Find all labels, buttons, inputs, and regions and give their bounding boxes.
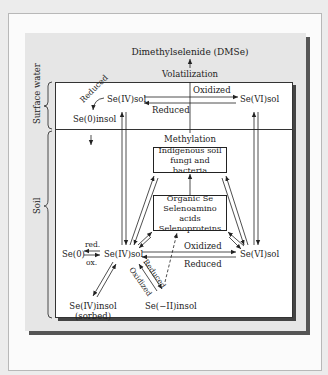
surface-se-vi-sol: Se(VI)sol <box>240 95 279 104</box>
organic-line-2: Selenoamino acids <box>154 203 226 224</box>
surface-reduced-label: Reduced <box>152 106 190 115</box>
methylation-label: Methylation <box>164 135 216 144</box>
soil-red-label: red. <box>85 241 100 249</box>
surface-oxidized-label: Oxidized <box>193 86 231 95</box>
zone-label-surface-water: Surface water <box>32 63 42 124</box>
microbes-box: Indigenous soil fungi and bacteria <box>153 147 227 173</box>
surface-se-0-insol: Se(0)insol <box>73 115 116 124</box>
microbes-line-2: fungi and bacteria <box>154 155 226 176</box>
surface-se-iv-sol: Se(IV)sol <box>107 95 146 104</box>
microbes-line-1: Indigenous soil <box>154 145 226 155</box>
zone-label-soil: Soil <box>32 198 42 214</box>
soil-oxidized-label: Oxidized <box>184 242 222 251</box>
organic-line-1: Organic Se <box>154 193 226 203</box>
organic-se-box: Organic Se Selenoamino acids Selenoprote… <box>153 195 227 231</box>
soil-sorbed-label: (sorbed) <box>75 312 111 321</box>
soil-ox-label: ox. <box>86 259 97 267</box>
soil-se-iv-insol: Se(IV)insol <box>69 302 116 311</box>
soil-se-vi-sol: Se(VI)sol <box>240 250 279 259</box>
soil-se-0: Se(0) <box>62 250 85 259</box>
soil-se-minus-ii-insol: Se(−II)insol <box>145 302 197 311</box>
soil-reduced-label: Reduced <box>184 260 222 269</box>
dmse-label: Dimethylselenide (DMSe) <box>131 48 248 57</box>
soil-se-iv-sol: Se(IV)sol <box>104 250 143 259</box>
volatilization-label: Volatilization <box>162 70 218 79</box>
organic-line-3: Selenoproteins <box>154 223 226 233</box>
